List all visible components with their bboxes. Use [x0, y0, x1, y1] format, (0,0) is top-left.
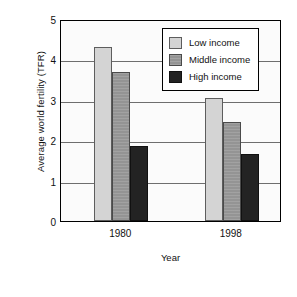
bar-high-income-1980 — [130, 146, 148, 221]
legend-swatch-high-income — [169, 71, 182, 83]
legend-label-low-income: Low income — [189, 37, 240, 48]
legend-label-middle-income: Middle income — [189, 54, 250, 65]
bar-low-income-1998 — [205, 98, 223, 221]
x-axis-title: Year — [60, 252, 281, 263]
legend-item-high-income: High income — [169, 68, 250, 85]
bar-middle-income-1980 — [112, 72, 130, 221]
y-tick-label: 3 — [30, 95, 56, 106]
y-tick-label: 2 — [30, 136, 56, 147]
y-tick-label: 5 — [30, 15, 56, 26]
y-tick-label: 0 — [30, 217, 56, 228]
fertility-bar-chart: Average world fertility (TFR) 543210 Low… — [0, 0, 297, 297]
legend: Low income Middle income High income — [162, 28, 259, 91]
bar-low-income-1980 — [94, 47, 112, 221]
y-tick-label: 1 — [30, 176, 56, 187]
bar-middle-income-1998 — [223, 122, 241, 221]
legend-swatch-middle-income — [169, 54, 182, 66]
plot-area: Low income Middle income High income — [60, 20, 281, 222]
x-tick-label-1980: 1980 — [90, 228, 150, 239]
legend-swatch-low-income — [169, 37, 182, 49]
x-tick-label-1998: 1998 — [201, 228, 261, 239]
legend-item-low-income: Low income — [169, 34, 250, 51]
y-tick-label: 4 — [30, 55, 56, 66]
bar-high-income-1998 — [241, 154, 259, 221]
legend-item-middle-income: Middle income — [169, 51, 250, 68]
y-axis-tick-labels: 543210 — [22, 20, 56, 222]
legend-label-high-income: High income — [189, 71, 242, 82]
